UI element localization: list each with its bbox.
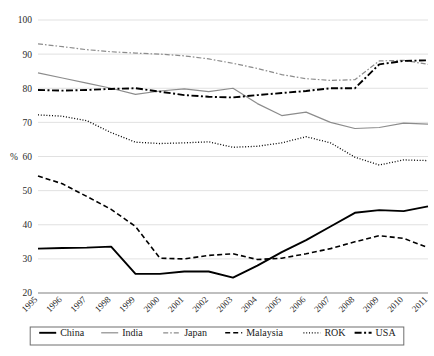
y-axis-tick-label: 80 [23, 84, 33, 94]
legend-label: Malaysia [246, 327, 283, 338]
series-line-china [38, 206, 428, 277]
legend-item-malaysia[interactable]: Malaysia [225, 327, 283, 338]
y-axis-tick-label: 30 [23, 254, 33, 264]
x-tick-group: 1997 [68, 294, 88, 314]
x-axis-tick-label: 1998 [93, 294, 113, 314]
y-axis-tick-label: 100 [18, 15, 33, 25]
y-axis-tick-label: 40 [23, 220, 33, 230]
line-chart: 2030405060708090100%19951996199719981999… [0, 0, 434, 356]
series-line-india [38, 73, 428, 129]
x-axis-tick-label: 2004 [239, 294, 259, 314]
x-tick-group: 1996 [44, 294, 64, 314]
x-tick-group: 2006 [288, 294, 308, 314]
legend-label: ROK [324, 327, 346, 338]
x-axis-tick-label: 2010 [385, 294, 405, 314]
x-axis-tick-label: 2002 [190, 294, 210, 314]
legend-box [30, 327, 404, 345]
x-tick-group: 2008 [336, 294, 356, 314]
figure-caption [0, 345, 434, 356]
x-axis-tick-label: 2008 [336, 294, 356, 314]
y-axis-tick-label: 90 [23, 50, 33, 60]
x-axis-tick-label: 2006 [288, 294, 308, 314]
legend-item-rok[interactable]: ROK [303, 327, 346, 338]
x-tick-group: 2001 [166, 294, 186, 314]
x-tick-group: 2003 [215, 294, 235, 314]
x-tick-group: 2011 [410, 294, 430, 314]
x-axis-tick-label: 2009 [361, 294, 381, 314]
y-axis-tick-label: 60 [23, 152, 33, 162]
x-tick-group: 2002 [190, 294, 210, 314]
x-tick-group: 2004 [239, 294, 259, 314]
x-axis-tick-label: 2007 [312, 294, 332, 314]
y-axis-tick-label: 50 [23, 186, 33, 196]
x-tick-group: 1999 [117, 294, 137, 314]
x-tick-group: 2009 [361, 294, 381, 314]
x-axis-tick-label: 1999 [117, 294, 137, 314]
legend-item-china[interactable]: China [39, 327, 84, 338]
y-axis-tick-label: 70 [23, 118, 33, 128]
legend-label: USA [376, 327, 397, 338]
x-axis-tick-label: 2005 [263, 294, 283, 314]
legend-label: India [122, 327, 143, 338]
legend-item-japan[interactable]: Japan [163, 327, 207, 338]
x-tick-group: 2000 [141, 294, 161, 314]
legend-label: Japan [184, 327, 207, 338]
x-tick-group: 2010 [385, 294, 405, 314]
series-line-usa [38, 60, 428, 97]
legend-item-india[interactable]: India [101, 327, 143, 338]
x-tick-group: 2007 [312, 294, 332, 314]
x-axis-tick-label: 2003 [215, 294, 235, 314]
legend-label: China [60, 327, 84, 338]
x-axis-tick-label: 1996 [44, 294, 64, 314]
figure-container: 2030405060708090100%19951996199719981999… [0, 0, 434, 356]
x-axis-tick-label: 2000 [141, 294, 161, 314]
x-axis-tick-label: 1997 [68, 294, 88, 314]
x-tick-group: 1998 [93, 294, 113, 314]
x-axis-tick-label: 2011 [410, 294, 430, 314]
x-axis-tick-label: 2001 [166, 294, 186, 314]
y-axis-title: % [10, 152, 18, 162]
x-tick-group: 2005 [263, 294, 283, 314]
legend-item-usa[interactable]: USA [355, 327, 397, 338]
